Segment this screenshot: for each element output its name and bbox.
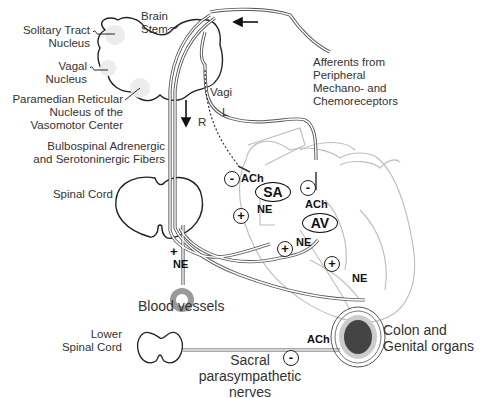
spinal-cord-outline — [116, 177, 203, 238]
ach-sa-label: ACh — [241, 172, 264, 185]
ne-sa-label: NE — [257, 203, 272, 216]
plus-ventricle-icon: + — [324, 256, 340, 272]
colon-graphic — [331, 307, 385, 367]
bulbospinal-label: Bulbospinal Adrenergic and Serotoninergi… — [20, 140, 165, 166]
ne-vessels-label: NE — [173, 258, 188, 271]
vagus-right-label: R — [198, 116, 206, 129]
sa-node: SA — [255, 182, 291, 202]
lower-spinal-cord-outline — [138, 332, 183, 362]
ach-colon-label: ACh — [307, 333, 330, 346]
brain-stem-label: Brain Stem — [141, 10, 168, 36]
vagi-label: Vagi — [210, 86, 232, 99]
plus-av-icon: + — [277, 241, 293, 257]
plus-sa-icon: + — [233, 208, 249, 224]
lower-spinal-cord-label: Lower Spinal Cord — [20, 328, 122, 354]
ne-av-label: NE — [296, 236, 311, 249]
blood-vessels-label: Blood vessels — [138, 298, 224, 314]
plus-vessels-icon: + — [170, 245, 178, 258]
ne-ventricle-label: NE — [352, 272, 367, 285]
minus-sacral-icon: - — [283, 350, 299, 366]
vagal-nucleus-label: Vagal Nucleus — [5, 60, 87, 86]
minus-sa-icon: - — [224, 171, 240, 187]
spinal-cord-label: Spinal Cord — [25, 188, 113, 201]
minus-av-icon: - — [300, 180, 316, 196]
solitary-tract-label: Solitary Tract Nucleus — [5, 24, 90, 50]
vagus-left-label: L — [222, 106, 228, 119]
ach-av-label: ACh — [305, 198, 328, 211]
av-node: AV — [302, 213, 338, 233]
afferents-label: Afferents from Peripheral Mechano- and C… — [313, 56, 398, 108]
colon-genital-label: Colon and Genital organs — [383, 322, 474, 354]
paramedian-label: Paramedian Reticular Nucleus of the Vaso… — [5, 93, 123, 132]
